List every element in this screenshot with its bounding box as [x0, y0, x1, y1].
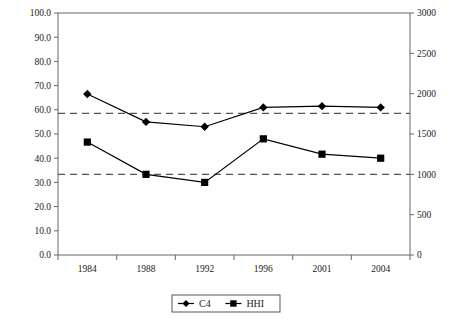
right-tick-label: 1500: [417, 129, 436, 139]
data-point-marker: [318, 151, 325, 158]
data-point-marker: [142, 171, 149, 178]
x-tick-label: 2004: [371, 264, 390, 274]
left-tick-label: 0.0: [39, 250, 51, 260]
x-tick-label: 1984: [78, 264, 97, 274]
left-tick-label: 40.0: [34, 154, 51, 164]
right-tick-label: 0: [417, 250, 422, 260]
right-tick-label: 2000: [417, 89, 436, 99]
right-tick-label: 3000: [417, 8, 436, 18]
line-chart: 0.010.020.030.040.050.060.070.080.090.01…: [0, 0, 454, 324]
right-tick-label: 1000: [417, 170, 436, 180]
chart-legend: C4HHI: [172, 295, 280, 312]
plot-frame: [58, 13, 410, 255]
x-tick-label: 1988: [137, 264, 156, 274]
chart-container: 0.010.020.030.040.050.060.070.080.090.01…: [0, 0, 454, 324]
right-axis-ticks: 050010001500200025003000: [410, 8, 436, 260]
x-tick-label: 2001: [313, 264, 332, 274]
x-tick-label: 1992: [195, 264, 214, 274]
left-tick-label: 70.0: [34, 81, 51, 91]
data-point-marker: [201, 179, 208, 186]
left-tick-label: 30.0: [34, 178, 51, 188]
x-axis-ticks: 198419881992199620012004: [58, 255, 410, 274]
legend-marker-square: [230, 300, 236, 306]
right-tick-label: 2500: [417, 49, 436, 59]
x-tick-label: 1996: [254, 264, 273, 274]
left-tick-label: 10.0: [34, 226, 51, 236]
left-tick-label: 60.0: [34, 105, 51, 115]
left-tick-label: 20.0: [34, 202, 51, 212]
legend-label: C4: [199, 298, 211, 309]
data-point-marker: [260, 135, 267, 142]
legend-label: HHI: [246, 298, 264, 309]
right-tick-label: 500: [417, 210, 432, 220]
left-tick-label: 100.0: [30, 8, 52, 18]
left-tick-label: 90.0: [34, 33, 51, 43]
data-point-marker: [377, 155, 384, 162]
plot-background: [58, 13, 410, 255]
left-axis-ticks: 0.010.020.030.040.050.060.070.080.090.01…: [30, 8, 58, 260]
left-tick-label: 80.0: [34, 57, 51, 67]
data-point-marker: [84, 138, 91, 145]
left-tick-label: 50.0: [34, 129, 51, 139]
